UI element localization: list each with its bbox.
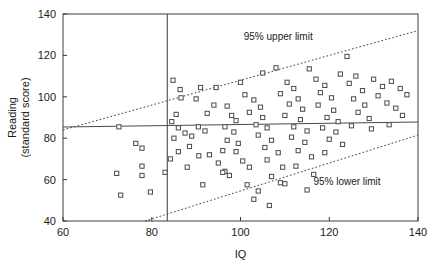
data-point (298, 117, 302, 121)
y-tick-label-60: 60 (44, 174, 56, 186)
data-point (305, 188, 309, 192)
data-point (254, 123, 258, 127)
data-point (230, 113, 234, 117)
data-point (305, 129, 309, 133)
data-point (234, 150, 238, 154)
data-point (296, 149, 300, 153)
data-point (278, 92, 282, 96)
data-point (183, 131, 187, 135)
data-point (356, 110, 360, 114)
chart-annotations: 95% upper limit95% lower limit (244, 31, 381, 187)
data-point (227, 173, 231, 177)
data-point (283, 182, 287, 186)
plot-canvas: 6080100120140406080100120140 95% upper l… (0, 0, 433, 269)
data-point (301, 107, 305, 111)
data-point (332, 108, 336, 112)
data-point (281, 165, 285, 169)
data-point (329, 96, 333, 100)
y-tick-label-140: 140 (38, 8, 56, 20)
data-point (327, 137, 331, 141)
data-point (320, 126, 324, 130)
data-point (303, 140, 307, 144)
data-point (185, 165, 189, 169)
data-point (389, 79, 393, 83)
data-point (269, 138, 273, 142)
axis-ticks (63, 14, 418, 221)
data-point (119, 193, 123, 197)
data-point (134, 141, 138, 145)
data-point (212, 103, 216, 107)
plot-frame (63, 14, 418, 221)
data-point (198, 85, 202, 89)
data-point (203, 129, 207, 133)
data-point (367, 116, 371, 120)
data-point (256, 133, 260, 137)
data-point (269, 174, 273, 178)
data-point (267, 203, 271, 207)
data-point (278, 181, 282, 185)
axis-titles: IQReading(standard score) (6, 77, 247, 260)
y-tick-label-80: 80 (44, 132, 56, 144)
data-point (245, 183, 249, 187)
data-point (148, 190, 152, 194)
data-point (318, 91, 322, 95)
scatter-plot-figure: 6080100120140406080100120140 95% upper l… (0, 0, 433, 269)
data-point (289, 135, 293, 139)
data-point (236, 141, 240, 145)
data-point (256, 189, 260, 193)
x-tick-label-100: 100 (231, 226, 249, 238)
data-point (363, 103, 367, 107)
data-point (296, 97, 300, 101)
data-point (252, 197, 256, 201)
data-point (178, 87, 182, 91)
data-point (225, 138, 229, 142)
x-tick-label-140: 140 (409, 226, 427, 238)
data-point (163, 170, 167, 174)
data-point (194, 97, 198, 101)
x-tick-label-80: 80 (146, 226, 158, 238)
data-point (140, 173, 144, 177)
data-point (261, 71, 265, 75)
data-point (258, 105, 262, 109)
data-point (216, 161, 220, 165)
data-point (225, 104, 229, 108)
plot-frame-rect (63, 14, 418, 221)
upper-limit-label: 95% upper limit (244, 31, 313, 42)
data-point (334, 130, 338, 134)
reference-lines (63, 14, 418, 221)
data-point (207, 153, 211, 157)
data-point (168, 157, 172, 161)
data-point (380, 84, 384, 88)
data-point (190, 134, 194, 138)
y-axis-title-line2: (standard score) (19, 77, 31, 157)
data-point (238, 80, 242, 84)
data-point (174, 112, 178, 116)
data-point (170, 120, 174, 124)
data-point (172, 136, 176, 140)
data-point (241, 159, 245, 163)
data-point (176, 150, 180, 154)
data-point (338, 72, 342, 76)
data-point (265, 126, 269, 130)
y-tick-label-100: 100 (38, 91, 56, 103)
data-point (287, 102, 291, 106)
data-point (117, 125, 121, 129)
data-point (314, 77, 318, 81)
data-point (221, 149, 225, 153)
data-point (247, 165, 251, 169)
data-point (292, 125, 296, 129)
data-point (352, 97, 356, 101)
data-point (140, 146, 144, 150)
x-tick-label-60: 60 (57, 226, 69, 238)
data-point (197, 154, 201, 158)
data-point (400, 113, 404, 117)
data-point (307, 67, 311, 71)
y-tick-label-40: 40 (44, 215, 56, 227)
data-point (398, 86, 402, 90)
data-point (252, 98, 256, 102)
data-point (372, 77, 376, 81)
data-point (309, 155, 313, 159)
data-point (369, 127, 373, 131)
data-point (221, 170, 225, 174)
data-point (232, 130, 236, 134)
